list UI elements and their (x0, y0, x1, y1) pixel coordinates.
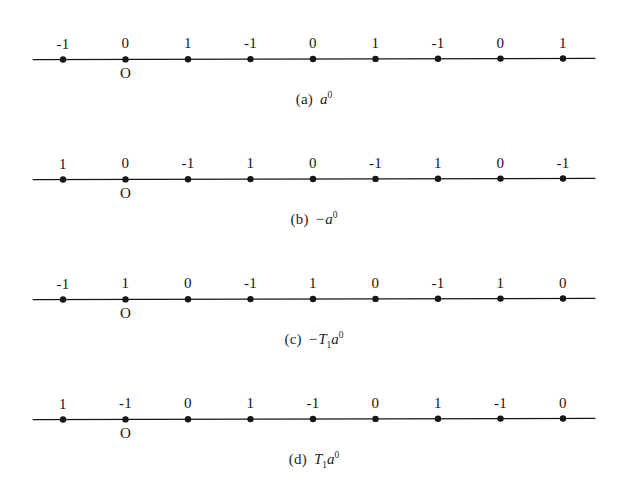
tick-label: 1 (59, 157, 67, 172)
lattice-point-dot (435, 296, 441, 302)
caption-base-symbol: a (331, 331, 339, 347)
lattice-point-dot (372, 176, 378, 182)
lattice-point-dot (435, 56, 441, 62)
tick-label: 0 (184, 276, 192, 291)
caption-tag: (c) (284, 331, 301, 347)
caption-base-symbol: a (325, 211, 333, 227)
tick-label: 0 (372, 396, 380, 411)
caption-minus-sign: − (309, 331, 317, 347)
panel-d: 1-101-101-10O(d)T1a0 (0, 360, 628, 480)
lattice-point-dot (122, 416, 128, 422)
lattice-point-dot (122, 296, 128, 302)
tick-label: -1 (56, 37, 69, 52)
tick-label: -1 (56, 277, 69, 292)
lattice-point-dot (60, 296, 66, 302)
tick-label: 1 (372, 36, 380, 51)
caption-tag: (b) (291, 211, 309, 227)
caption-expression: a0 (320, 91, 332, 107)
panel-caption: (a)a0 (0, 91, 628, 108)
tick-label: 1 (434, 156, 442, 171)
lattice-point-dot (247, 416, 253, 422)
tick-label: 0 (309, 36, 317, 51)
panel-c: -110-110-110O(c)−T1a0 (0, 240, 628, 360)
tick-label: -1 (119, 396, 132, 411)
tick-label: 0 (309, 156, 317, 171)
tick-label: 1 (559, 36, 567, 51)
tick-label: 0 (559, 276, 567, 291)
lattice-point-dot (310, 176, 316, 182)
tick-label: 0 (497, 36, 505, 51)
tick-label: 0 (497, 156, 505, 171)
tick-label: 1 (59, 397, 67, 412)
tick-label: -1 (306, 396, 319, 411)
lattice-point-dot (497, 55, 503, 61)
caption-superscript: 0 (339, 330, 344, 340)
lattice-point-dot (497, 175, 503, 181)
caption-tag: (d) (289, 451, 307, 467)
caption-tag: (a) (296, 91, 313, 107)
tick-label: 1 (247, 156, 255, 171)
tick-label: 0 (122, 156, 130, 171)
panel-b: 10-110-110-1O(b)−a0 (0, 120, 628, 240)
tick-label: 0 (122, 36, 130, 51)
tick-label: -1 (431, 36, 444, 51)
caption-expression: −a0 (316, 211, 338, 227)
lattice-point-dot (435, 416, 441, 422)
lattice-point-dot (60, 176, 66, 182)
tick-label: 1 (434, 396, 442, 411)
tick-label: -1 (431, 276, 444, 291)
lattice-point-dot (372, 416, 378, 422)
caption-base-symbol: a (320, 91, 328, 107)
caption-operator-symbol: T (318, 331, 326, 347)
panel-caption: (d)T1a0 (0, 451, 628, 468)
tick-label: -1 (494, 396, 507, 411)
caption-expression: −T1a0 (309, 331, 344, 347)
lattice-point-dot (185, 56, 191, 62)
tick-label: 1 (247, 396, 255, 411)
lattice-point-dot (185, 296, 191, 302)
tick-label: 1 (184, 36, 192, 51)
tick-label: -1 (244, 276, 257, 291)
origin-label: O (120, 426, 131, 441)
caption-superscript: 0 (333, 210, 338, 220)
tick-label: -1 (369, 156, 382, 171)
lattice-point-dot (247, 56, 253, 62)
lattice-point-dot (372, 56, 378, 62)
lattice-point-dot (122, 56, 128, 62)
lattice-point-dot (560, 175, 566, 181)
lattice-point-dot (372, 296, 378, 302)
tick-label: 0 (559, 396, 567, 411)
panel-caption: (b)−a0 (0, 211, 628, 228)
origin-label: O (120, 66, 131, 81)
tick-label: 1 (497, 276, 505, 291)
tick-label: -1 (556, 156, 569, 171)
lattice-point-dot (122, 176, 128, 182)
origin-label: O (120, 186, 131, 201)
lattice-point-dot (310, 416, 316, 422)
lattice-point-dot (497, 295, 503, 301)
lattice-point-dot (247, 176, 253, 182)
lattice-point-dot (310, 56, 316, 62)
origin-label: O (120, 306, 131, 321)
lattice-point-dot (60, 56, 66, 62)
lattice-point-dot (247, 296, 253, 302)
tick-label: 0 (372, 276, 380, 291)
lattice-point-dot (185, 176, 191, 182)
number-line-figure: -101-101-101O(a)a010-110-110-1O(b)−a0-11… (0, 0, 628, 496)
caption-superscript: 0 (328, 90, 333, 100)
tick-label: -1 (244, 36, 257, 51)
caption-superscript: 0 (334, 450, 339, 460)
caption-expression: T1a0 (314, 451, 339, 467)
lattice-point-dot (560, 295, 566, 301)
tick-label: -1 (181, 156, 194, 171)
lattice-point-dot (560, 55, 566, 61)
tick-label: 1 (309, 276, 317, 291)
panel-caption: (c)−T1a0 (0, 331, 628, 348)
tick-label: 1 (122, 276, 130, 291)
panel-a: -101-101-101O(a)a0 (0, 0, 628, 120)
tick-label: 0 (184, 396, 192, 411)
caption-minus-sign: − (316, 211, 324, 227)
lattice-point-dot (310, 296, 316, 302)
lattice-point-dot (497, 415, 503, 421)
lattice-point-dot (435, 176, 441, 182)
